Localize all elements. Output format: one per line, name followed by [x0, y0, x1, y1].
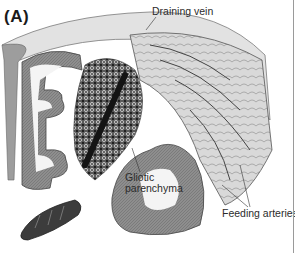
specimen	[21, 200, 81, 240]
brain-avm-illustration: (A) Draining vein Gliotic parenchyma Fee…	[0, 0, 295, 253]
panel-label: (A)	[4, 7, 29, 27]
right-border-rule	[293, 0, 294, 253]
feeding-arteries-label: Feeding arteries	[222, 208, 295, 219]
draining-vein-label: Draining vein	[152, 6, 213, 17]
gliotic-parenchyma-label: Gliotic parenchyma	[125, 172, 183, 194]
gliotic-label-line2: parenchyma	[125, 183, 183, 194]
